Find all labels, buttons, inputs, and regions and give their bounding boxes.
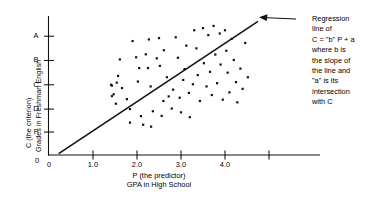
scatter-point [219,32,221,34]
scatter-point [166,76,168,78]
scatter-point [235,81,237,83]
scatter-point [152,110,154,112]
annotation-line: line of [312,24,355,34]
scatter-point [207,34,209,36]
scatter-point [212,25,214,27]
scatter-point [145,53,147,55]
scatter-point [171,107,173,109]
scatter-point [129,122,131,124]
scatter-point [214,53,216,55]
scatter-point [185,45,187,47]
annotation-arrow [259,14,296,21]
x-tick-label-2.0: 2.0 [125,160,149,169]
scatter-point [142,124,144,126]
scatter-point [209,71,211,73]
scatter-point [115,103,117,105]
scatter-point [205,85,207,87]
regression-scatter-figure: C (the criterion) Grades in Freshman Eng… [0,0,389,201]
y-tick-label-B: B [29,55,43,64]
scatter-point [197,74,199,76]
scatter-point [244,42,246,44]
scatter-point [129,108,131,110]
scatter-point [247,76,249,78]
annotation-line: intersection [312,87,355,97]
regression-line [59,21,258,153]
x-tick-label-4.0: 4.0 [213,160,237,169]
scatter-point [159,65,161,67]
scatter-point [177,57,179,59]
scatter-point [150,126,152,128]
y-tick-label-C: C [29,80,43,89]
scatter-point [117,75,119,77]
scatter-point [179,97,181,99]
y-tick-label-A: A [29,31,43,40]
scatter-point [168,95,170,97]
scatter-point [195,47,197,49]
scatter-point [239,68,241,70]
annotation-line: the slope of [312,56,355,66]
scatter-point [156,57,158,59]
scatter-point [180,111,182,113]
scatter-point [175,36,177,38]
scatter-point [113,93,115,95]
scatter-point [119,58,121,60]
annotation-line: "a" is its [312,76,355,86]
scatter-point [135,56,137,58]
annotation-line: with C [312,97,355,107]
scatter-point [192,83,194,85]
scatter-point [163,49,165,51]
scatter-point [220,63,222,65]
scatter-point [233,59,235,61]
scatter-point [199,100,201,102]
scatter-point [147,67,149,69]
y-tick-label-D: D [29,104,43,113]
scatter-point [211,94,213,96]
scatter-point [140,115,142,117]
regression-annotation-text: Regressionline ofC = "b" P + awhere b is… [312,14,355,108]
annotation-line: where b is [312,45,355,55]
x-axis-label-line-1: P (the predictor) [49,171,269,180]
annotation-line: Regression [312,14,355,24]
regression-line-group [59,21,258,153]
scatter-point [188,92,190,94]
scatter-point [203,62,205,64]
scatter-point [224,29,226,31]
scatter-point [242,88,244,90]
scatter-point [111,95,113,97]
scatter-point [172,89,174,91]
scatter-point [225,50,227,52]
y-tick-label-F: F [29,127,43,136]
scatter-point [121,87,123,89]
scatter-point [137,80,139,82]
scatter-point [150,85,152,87]
x-tick-label-0: 0 [37,160,61,169]
annotation-line: the line and [312,66,355,76]
scatter-point [228,91,230,93]
scatter-point [227,72,229,74]
scatter-point [222,99,224,101]
scatter-point [161,115,163,117]
scatter-point [111,85,113,87]
scatter-point [193,29,195,31]
scatter-point [216,82,218,84]
scatter-point [138,67,140,69]
scatter-point [236,101,238,103]
scatter-point [148,38,150,40]
x-axis-label: P (the predictor) GPA in High School [49,171,269,190]
scatter-point [158,37,160,39]
scatter-point [126,98,128,100]
x-tick-label-1.0: 1.0 [81,160,105,169]
x-tick-label-3.0: 3.0 [169,160,193,169]
annotation-line: C = "b" P + a [312,35,355,45]
x-axis-label-line-2: GPA in High School [49,180,269,189]
scatter-point [189,116,191,118]
scatter-point [116,82,118,84]
scatter-point [182,79,184,81]
scatter-point [202,27,204,29]
scatter-point [132,40,134,42]
scatter-point [162,100,164,102]
